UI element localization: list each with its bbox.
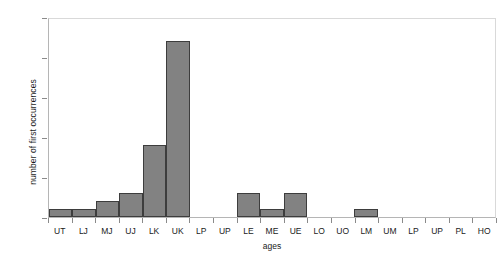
- bar-slot: [425, 19, 448, 217]
- x-axis-title: ages: [48, 240, 496, 252]
- x-axis-tick-label: UE: [284, 224, 308, 238]
- x-axis-tick-label: LE: [237, 224, 261, 238]
- x-axis-tick-mark: [355, 218, 356, 223]
- x-axis-tick-mark: [449, 218, 450, 223]
- x-axis-tick-mark: [166, 218, 167, 223]
- y-axis-tick-mark: [42, 18, 47, 19]
- x-axis-tick-label: UJ: [119, 224, 143, 238]
- bar: [166, 41, 189, 217]
- bar: [237, 193, 260, 217]
- plot-area: [48, 18, 496, 218]
- x-axis-tick-label: LP: [189, 224, 213, 238]
- bar-slot: [213, 19, 236, 217]
- x-axis-tick-mark: [119, 218, 120, 223]
- bar: [119, 193, 142, 217]
- bar-slot: [401, 19, 424, 217]
- x-axis-tick-marks: [48, 218, 496, 223]
- x-axis-tick-mark: [95, 218, 96, 223]
- bar-slot: [260, 19, 283, 217]
- x-axis-tick-label: LP: [402, 224, 426, 238]
- bar-slot: [166, 19, 189, 217]
- bar: [72, 209, 95, 217]
- bar-slot: [471, 19, 494, 217]
- bar-slot: [49, 19, 72, 217]
- x-axis-tick-mark: [307, 218, 308, 223]
- bar-slot: [143, 19, 166, 217]
- bar-slot: [448, 19, 471, 217]
- bar-slot: [307, 19, 330, 217]
- bar: [49, 209, 72, 217]
- x-axis-tick-label: HO: [472, 224, 496, 238]
- x-axis-tick-mark: [496, 218, 497, 223]
- x-axis-tick-label: UO: [331, 224, 355, 238]
- y-axis-tick-mark: [42, 138, 47, 139]
- x-axis-tick-mark: [284, 218, 285, 223]
- x-axis-tick-label: UK: [166, 224, 190, 238]
- x-axis-tick-label: LM: [355, 224, 379, 238]
- x-axis-tick-label: PL: [449, 224, 473, 238]
- bar: [354, 209, 377, 217]
- x-axis-tick-mark: [48, 218, 49, 223]
- x-axis-tick-labels: UTLJMJUJLKUKLPUPLEMEUELOUOLMUMLPUPPLHO: [48, 224, 496, 238]
- y-axis-tick-mark: [42, 58, 47, 59]
- bar-slot: [331, 19, 354, 217]
- x-axis-tick-mark: [142, 218, 143, 223]
- bar-slot: [354, 19, 377, 217]
- x-axis-tick-label: ME: [260, 224, 284, 238]
- x-axis-tick-mark: [237, 218, 238, 223]
- x-axis-tick-mark: [378, 218, 379, 223]
- bar: [284, 193, 307, 217]
- bar-slot: [190, 19, 213, 217]
- bar: [96, 201, 119, 217]
- x-axis-tick-mark: [189, 218, 190, 223]
- x-axis-tick-mark: [472, 218, 473, 223]
- bar-slot: [72, 19, 95, 217]
- y-axis-tick-mark: [42, 178, 47, 179]
- bar-slot: [119, 19, 142, 217]
- x-axis-tick-label: UM: [378, 224, 402, 238]
- bar: [143, 145, 166, 217]
- x-axis-tick-label: UT: [48, 224, 72, 238]
- y-axis-title: number of first occurrences: [22, 0, 44, 264]
- x-axis-tick-label: LJ: [72, 224, 96, 238]
- x-axis-tick-mark: [402, 218, 403, 223]
- x-axis-tick-label: UP: [425, 224, 449, 238]
- bar-slot: [284, 19, 307, 217]
- x-axis-tick-mark: [72, 218, 73, 223]
- y-axis-tick-mark: [42, 218, 47, 219]
- bar: [260, 209, 283, 217]
- x-axis-tick-label: LK: [142, 224, 166, 238]
- x-axis-tick-mark: [260, 218, 261, 223]
- x-axis-tick-label: LO: [307, 224, 331, 238]
- x-axis-tick-label: MJ: [95, 224, 119, 238]
- bar-slot: [96, 19, 119, 217]
- bar-slot: [378, 19, 401, 217]
- bar-slot: [237, 19, 260, 217]
- x-axis-tick-mark: [331, 218, 332, 223]
- x-axis-tick-mark: [425, 218, 426, 223]
- y-axis-tick-mark: [42, 98, 47, 99]
- x-axis-tick-label: UP: [213, 224, 237, 238]
- bar-chart: number of first occurrences 0510152025 U…: [0, 0, 504, 264]
- bar-series: [49, 19, 495, 217]
- x-axis-tick-mark: [213, 218, 214, 223]
